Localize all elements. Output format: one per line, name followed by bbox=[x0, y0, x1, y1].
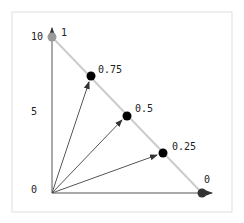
y-tick-0: 0 bbox=[31, 184, 37, 195]
point-025 bbox=[159, 149, 168, 158]
label-0: 0 bbox=[204, 174, 210, 185]
plot-frame bbox=[12, 12, 232, 212]
label-075: 0.75 bbox=[98, 64, 122, 75]
label-025: 0.25 bbox=[172, 141, 196, 152]
point-0 bbox=[198, 189, 207, 198]
label-05: 0.5 bbox=[135, 103, 153, 114]
point-075 bbox=[87, 72, 96, 81]
label-1: 1 bbox=[61, 27, 67, 38]
point-1 bbox=[48, 33, 57, 42]
vector-interpolation-diagram: 10 5 0 1 0.75 0.5 0.25 0 bbox=[0, 0, 244, 223]
y-tick-5: 5 bbox=[31, 106, 37, 117]
y-tick-10: 10 bbox=[31, 31, 43, 42]
point-05 bbox=[123, 112, 132, 121]
